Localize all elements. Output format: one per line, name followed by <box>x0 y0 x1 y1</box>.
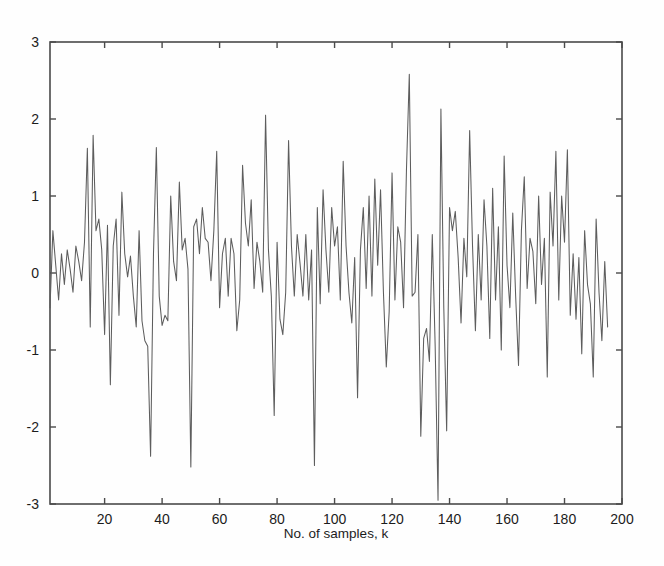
figure-container: 20406080100120140160180200 -3-2-10123 No… <box>0 0 664 566</box>
x-tick-label: 100 <box>323 511 347 527</box>
x-tick-label: 40 <box>154 511 170 527</box>
x-axis-title: No. of samples, k <box>284 526 389 541</box>
x-tick-label: 160 <box>495 511 519 527</box>
y-tick-label: -1 <box>27 342 40 358</box>
x-tick-label: 120 <box>380 511 404 527</box>
y-tick-label: -3 <box>27 496 40 512</box>
x-tick-label: 200 <box>610 511 634 527</box>
x-tick-label: 140 <box>438 511 462 527</box>
y-tick-label: 2 <box>31 111 39 127</box>
x-tick-label: 60 <box>212 511 228 527</box>
y-tick-label: 0 <box>31 265 39 281</box>
y-tick-label: 3 <box>31 34 39 50</box>
x-tick-label: 80 <box>269 511 285 527</box>
x-tick-label: 20 <box>97 511 113 527</box>
x-tick-label: 180 <box>553 511 577 527</box>
chart-plot: 20406080100120140160180200 -3-2-10123 No… <box>0 0 664 566</box>
figure-background <box>0 0 664 566</box>
y-tick-label: -2 <box>27 419 40 435</box>
y-tick-label: 1 <box>31 188 39 204</box>
